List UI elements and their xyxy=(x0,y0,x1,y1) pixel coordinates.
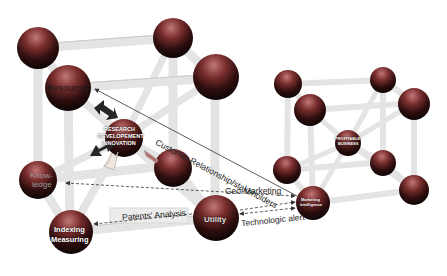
sphere-right-back-bottom-right xyxy=(370,150,396,176)
label-resources: Resources xyxy=(47,84,90,93)
label-business: BUSINESS xyxy=(338,142,358,146)
label-measuring: Measuring xyxy=(51,236,89,244)
label-intelligence: intelligence xyxy=(300,203,322,207)
label-development: DEVELOPEMENT xyxy=(98,134,144,140)
label-knowledge-1: Know- xyxy=(30,172,53,180)
diagram-canvas: Resources RESEARCH DEVELOPEMENT INNOVATI… xyxy=(0,0,447,276)
edge-label-geo-marketing: Geo-Marketing xyxy=(225,187,281,196)
label-indexing: Indexing xyxy=(54,226,85,234)
sphere-right-back-bottom-left xyxy=(273,156,301,184)
sphere-left-front-top-right xyxy=(193,54,239,100)
label-knowledge-2: ledge xyxy=(32,181,52,189)
label-innovation: INNOVATION xyxy=(102,141,136,147)
sphere-right-front-top-left xyxy=(294,94,326,126)
sphere-right-front-bottom-right xyxy=(399,175,429,205)
sphere-left-back-top-left xyxy=(17,27,59,69)
label-utility: Utility xyxy=(204,216,226,224)
label-research: RESEARCH xyxy=(104,127,135,133)
sphere-right-front-top-right xyxy=(398,88,430,120)
sphere-right-back-top-right xyxy=(370,67,396,93)
sphere-left-back-top-right xyxy=(153,18,193,58)
sphere-right-back-top-left xyxy=(274,70,302,98)
